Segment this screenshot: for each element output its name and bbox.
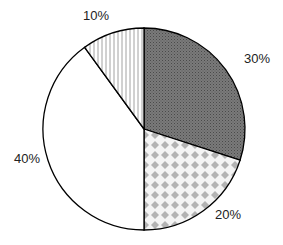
slice-label-10: 10%: [83, 8, 109, 23]
pie-slices: [43, 28, 245, 230]
slice-label-30: 30%: [244, 51, 270, 66]
pie-chart: 30%20%40%10%: [0, 0, 283, 245]
slice-label-40: 40%: [14, 151, 40, 166]
slice-label-20: 20%: [215, 207, 241, 222]
